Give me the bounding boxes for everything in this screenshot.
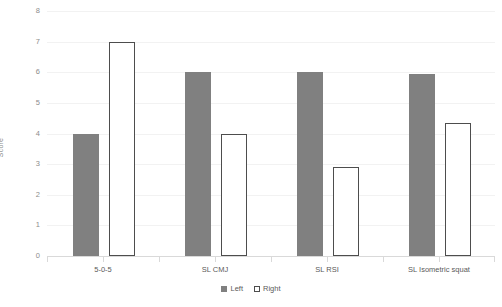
x-tick — [327, 256, 328, 262]
x-tick — [215, 256, 216, 262]
x-tick — [103, 256, 104, 262]
bar-left — [409, 74, 435, 256]
bar-group — [47, 11, 159, 256]
bar-group — [383, 11, 495, 256]
x-tick — [159, 256, 160, 262]
x-category-label: 5-0-5 — [47, 263, 159, 277]
y-tick-label: 7 — [14, 38, 40, 46]
y-tick-label: 6 — [14, 69, 40, 77]
bar-right — [109, 42, 135, 256]
y-tick-label: 4 — [14, 130, 40, 138]
x-tick — [439, 256, 440, 262]
x-tick — [271, 256, 272, 262]
x-axis-ticks — [47, 256, 495, 262]
chart-legend: Left Right — [0, 285, 502, 293]
bar-left — [73, 134, 99, 257]
x-tick — [383, 256, 384, 262]
y-axis: 8 7 6 5 4 3 2 1 0 — [7, 11, 40, 256]
bar-left — [297, 72, 323, 256]
bar-right — [333, 167, 359, 256]
legend-label: Right — [263, 285, 281, 293]
y-tick-label: 3 — [14, 160, 40, 168]
x-category-label: SL Isometric squat — [383, 263, 495, 277]
x-category-label: SL CMJ — [159, 263, 271, 277]
legend-label: Left — [230, 285, 243, 293]
y-tick-label: 5 — [14, 99, 40, 107]
legend-swatch-right-icon — [254, 286, 260, 292]
bar-chart: 8 7 6 5 4 3 2 1 0 Score — [0, 0, 502, 307]
legend-swatch-left-icon — [221, 286, 227, 292]
y-axis-title: Score — [0, 138, 4, 157]
x-category-label: SL RSI — [271, 263, 383, 277]
y-tick-label: 8 — [14, 7, 40, 15]
x-axis-labels: 5-0-5 SL CMJ SL RSI SL Isometric squat — [47, 263, 495, 277]
bar-right — [221, 134, 247, 257]
bar-group — [159, 11, 271, 256]
legend-item-right: Right — [254, 285, 281, 293]
y-tick-label: 0 — [14, 252, 40, 260]
bar-left — [185, 72, 211, 256]
bar-right — [445, 123, 471, 256]
y-tick-label: 2 — [14, 191, 40, 199]
legend-item-left: Left — [221, 285, 243, 293]
plot-area — [47, 11, 495, 256]
bar-group — [271, 11, 383, 256]
x-tick — [47, 256, 48, 262]
y-tick-label: 1 — [14, 222, 40, 230]
x-tick — [494, 256, 495, 262]
bar-groups — [47, 11, 495, 256]
